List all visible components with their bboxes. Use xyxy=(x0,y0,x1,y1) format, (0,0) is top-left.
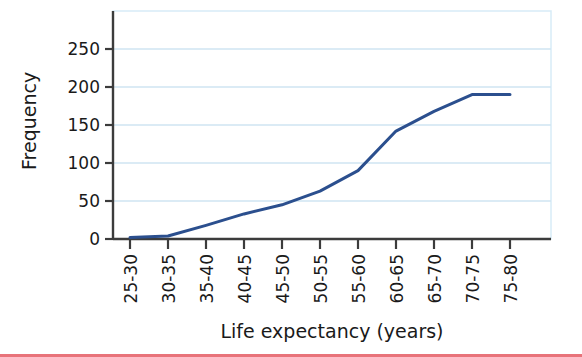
x-tick-label: 65-70 xyxy=(425,254,445,303)
y-axis-title: Frequency xyxy=(18,72,40,170)
cumulative-frequency-line-chart: 250 200 150 100 50 0 25-30 30-35 35-40 xyxy=(0,0,582,357)
x-tick-label: 45-50 xyxy=(273,254,293,303)
y-tick-label: 150 xyxy=(68,115,100,135)
x-tick-label: 60-65 xyxy=(387,254,407,303)
x-tick-label: 30-35 xyxy=(159,254,179,303)
x-tick-label: 35-40 xyxy=(197,254,217,303)
x-tick-label: 70-75 xyxy=(463,254,483,303)
x-tick-labels: 25-30 30-35 35-40 40-45 45-50 50-55 55-6… xyxy=(121,254,521,303)
y-tick-labels: 250 200 150 100 50 0 xyxy=(68,39,100,249)
x-tick-label: 75-80 xyxy=(501,254,521,303)
chart-figure: 250 200 150 100 50 0 25-30 30-35 35-40 xyxy=(0,0,582,357)
y-tick-label: 0 xyxy=(89,229,100,249)
x-tick-label: 55-60 xyxy=(349,254,369,303)
x-tick-label: 25-30 xyxy=(121,254,141,303)
y-tick-label: 200 xyxy=(68,77,100,97)
x-axis-title: Life expectancy (years) xyxy=(220,320,443,342)
y-tick-label: 100 xyxy=(68,153,100,173)
x-tick-label: 40-45 xyxy=(235,254,255,303)
x-tick-marks xyxy=(130,239,510,249)
y-tick-label: 250 xyxy=(68,39,100,59)
x-tick-label: 50-55 xyxy=(311,254,331,303)
y-tick-label: 50 xyxy=(78,191,100,211)
